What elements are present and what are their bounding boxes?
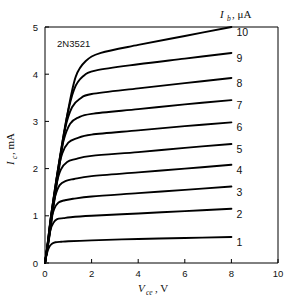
curve-label-10: 10: [236, 26, 248, 38]
x-axis-title-unit: , V: [155, 282, 168, 294]
device-label: 2N3521: [57, 38, 90, 49]
x-tick-label-2: 2: [89, 268, 94, 279]
curve-label-4: 4: [236, 164, 242, 176]
curve-label-8: 8: [236, 77, 242, 89]
legend-title-unit: , μA: [232, 8, 251, 20]
y-tick-label-5: 5: [33, 22, 38, 33]
y-axis-title-unit: , mA: [4, 133, 16, 155]
curve-label-3: 3: [236, 186, 242, 198]
legend-title-subscript: b: [227, 14, 231, 23]
curve-label-6: 6: [236, 121, 242, 133]
y-tick-label-4: 4: [33, 69, 38, 80]
x-tick-label-8: 8: [229, 268, 234, 279]
curve-label-5: 5: [236, 143, 242, 155]
y-tick-label-0: 0: [33, 258, 38, 269]
x-tick-label-4: 4: [136, 268, 141, 279]
y-tick-label-2: 2: [33, 163, 38, 174]
x-tick-label-6: 6: [182, 268, 187, 279]
transistor-characteristics-chart: 0246810 012345 12345678910 2N3521 I b , …: [0, 0, 299, 304]
curve-label-7: 7: [236, 99, 242, 111]
curve-label-1: 1: [236, 236, 242, 248]
curve-label-2: 2: [236, 208, 242, 220]
y-tick-label-1: 1: [33, 210, 38, 221]
x-tick-label-10: 10: [273, 268, 284, 279]
x-tick-label-0: 0: [42, 268, 47, 279]
figure-container: 0246810 012345 12345678910 2N3521 I b , …: [0, 0, 299, 304]
y-tick-label-3: 3: [33, 116, 38, 127]
x-axis-title-subscript: ce: [146, 288, 153, 297]
curve-label-9: 9: [236, 52, 242, 64]
